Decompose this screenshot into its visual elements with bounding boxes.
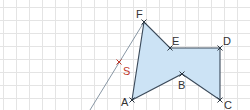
- label-e: E: [172, 35, 179, 47]
- label-c: C: [224, 99, 232, 110]
- label-s: S: [123, 65, 130, 77]
- label-f: F: [136, 8, 143, 20]
- label-d: D: [223, 35, 231, 47]
- label-b: B: [178, 79, 185, 91]
- geometry-diagram: F E D B C A S: [0, 0, 250, 110]
- label-a: A: [121, 96, 129, 108]
